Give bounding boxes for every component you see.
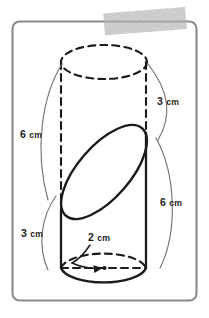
label-top-right: 3 cm [157,95,179,107]
cylinder-diagram: 3 cm 6 cm 6 cm 3 cm 2 cm [0,0,209,318]
diagram-canvas: 3 cm 6 cm 6 cm 3 cm 2 cm [0,0,209,318]
worksheet-frame [13,22,197,301]
label-radius: 2 cm [88,231,110,243]
base-center-dot [102,266,106,270]
label-right-lower: 6 cm [160,196,182,208]
label-left-lower: 3 cm [21,227,43,239]
label-left-upper: 6 cm [20,128,42,140]
